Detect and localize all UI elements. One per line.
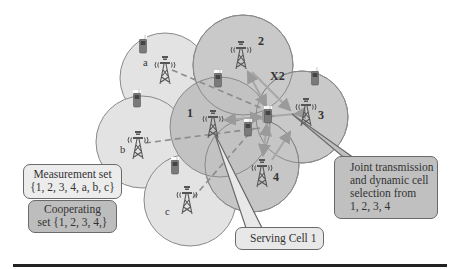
phone-a-icon xyxy=(139,35,147,53)
serving-cell-text: Serving Cell 1 xyxy=(250,232,323,245)
joint-transmission-line4: 1, 2, 3, 4 xyxy=(350,200,437,213)
measurement-set-title: Measurement set xyxy=(24,168,121,181)
cooperating-set-members: set {1, 2, 3, 4,} xyxy=(29,216,116,229)
measurement-set-members: {1, 2, 3, 4, a, b, c} xyxy=(24,181,121,194)
cell-c-label: c xyxy=(165,206,170,217)
cell-3-label: 3 xyxy=(318,108,324,122)
cell-a-label: a xyxy=(143,57,148,68)
x2-interface-label: X2 xyxy=(270,69,285,83)
cell-1 xyxy=(170,77,270,177)
phone-cell1-icon xyxy=(214,69,222,87)
phone-b-icon xyxy=(133,89,141,107)
measurement-set-callout: Measurement set {1, 2, 3, 4, a, b, c} xyxy=(23,164,122,199)
cell-4-label: 4 xyxy=(273,170,279,184)
cell-2-label: 2 xyxy=(258,34,264,48)
joint-transmission-callout: Joint transmission and dynamic cell sele… xyxy=(334,156,438,219)
phone-cell3-icon xyxy=(311,67,319,85)
joint-transmission-line3: selection from xyxy=(350,187,437,200)
phone-served-ue-icon xyxy=(264,105,272,123)
phone-cell4-icon xyxy=(244,118,252,136)
cell-1-label: 1 xyxy=(187,106,193,120)
serving-cell-callout: Serving Cell 1 xyxy=(235,227,324,250)
joint-transmission-line2: and dynamic cell xyxy=(350,174,437,187)
cooperating-set-title: Cooperating xyxy=(29,203,116,216)
bottom-rule xyxy=(13,264,447,267)
cell-b-label: b xyxy=(120,144,125,155)
phone-c-icon xyxy=(171,156,179,174)
cooperating-set-callout: Cooperating set {1, 2, 3, 4,} xyxy=(28,200,117,233)
joint-transmission-line1: Joint transmission xyxy=(350,161,437,174)
